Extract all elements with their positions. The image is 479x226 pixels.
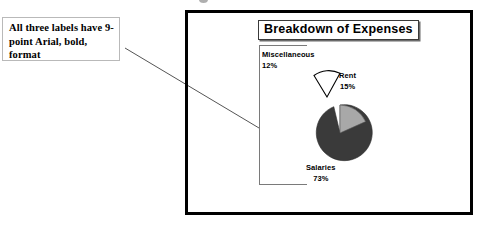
clipped-glyph-artifact (199, 0, 208, 3)
pie-label-salaries-name: Salaries (306, 163, 336, 173)
pie-label-rent-value: 15% (339, 81, 356, 92)
pie-label-rent-name: Rent (339, 71, 356, 81)
pie-label-miscellaneous-value: 12% (262, 60, 315, 71)
chart-title: Breakdown of Expenses (264, 22, 413, 37)
pie-label-rent: Rent 15% (339, 71, 356, 92)
pie-label-miscellaneous-name: Miscellaneous (262, 50, 315, 60)
pie-label-salaries: Salaries 73% (306, 163, 336, 184)
pie-label-salaries-value: 73% (306, 173, 336, 184)
annotation-callout-box: All three labels have 9-point Arial, bol… (2, 17, 120, 61)
pie-label-miscellaneous: Miscellaneous 12% (262, 50, 315, 71)
pie-slice-miscellaneous (314, 71, 340, 97)
annotation-callout-text: All three labels have 9-point Arial, bol… (9, 21, 114, 62)
screenshot-canvas: All three labels have 9-point Arial, bol… (0, 0, 479, 226)
chart-title-box: Breakdown of Expenses (258, 20, 419, 40)
